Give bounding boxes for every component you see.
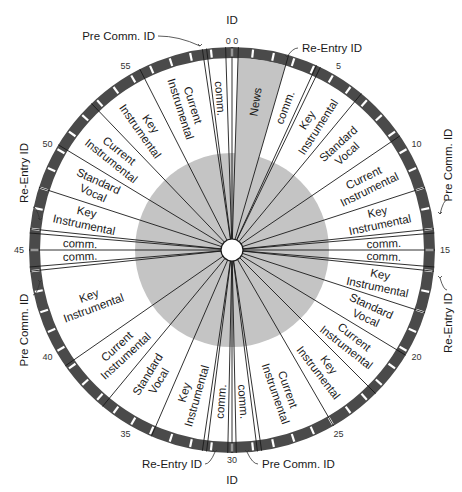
callout-leader xyxy=(158,36,200,46)
center-hub xyxy=(221,239,243,261)
minute-label: 45 xyxy=(14,245,24,255)
callout-label: ID xyxy=(226,14,238,26)
minute-label-bottom: 30 xyxy=(227,455,237,465)
minute-label: 35 xyxy=(120,429,130,439)
segment-label: KeyInstrumental xyxy=(52,200,119,238)
minute-label: 10 xyxy=(411,139,421,149)
segment-label-text: comm. xyxy=(63,250,98,263)
segment-label: comm. xyxy=(366,237,401,250)
segment-label-text: comm. xyxy=(366,250,401,263)
segment-label: comm. xyxy=(236,384,250,419)
callout-label: Pre Comm. ID xyxy=(82,30,155,42)
segment-label-text: comm. xyxy=(236,384,250,419)
callout-leader xyxy=(205,452,215,464)
segment-label: comm. xyxy=(213,81,228,116)
minute-label: 55 xyxy=(120,61,130,71)
minute-notch xyxy=(252,50,253,58)
callout-label: Re-Entry ID xyxy=(18,143,30,203)
callout-label: Pre Comm. ID xyxy=(262,458,335,470)
segment-label: StandardVocal xyxy=(69,166,122,208)
segment-label-text: comm. xyxy=(214,384,228,419)
segment-label: comm. xyxy=(63,237,98,250)
callout-label: Re-Entry ID xyxy=(302,42,362,54)
minute-notch xyxy=(211,50,212,58)
radio-clock-diagram: Newscomm.KeyInstrumentalStandardVocalCur… xyxy=(0,0,462,492)
minute-label: 20 xyxy=(411,352,421,362)
segment-label-text: comm. xyxy=(213,81,228,116)
minute-notch xyxy=(252,442,253,450)
callout-label: Re-Entry ID xyxy=(442,293,454,353)
segment-label: StandardVocal xyxy=(317,124,368,174)
minute-label: 40 xyxy=(43,352,53,362)
segment-label: CurrentInstrumental xyxy=(260,358,304,426)
segment-label: CurrentInstrumental xyxy=(165,73,208,141)
minute-label: 50 xyxy=(43,139,53,149)
callout-label: ID xyxy=(226,474,238,486)
minute-label: 5 xyxy=(336,61,341,71)
arrow-icon xyxy=(438,276,442,278)
minute-label: 25 xyxy=(333,429,343,439)
segment-label-text: comm. xyxy=(366,237,401,250)
minute-notch xyxy=(211,442,212,450)
minute-label-top: 0 0 xyxy=(226,36,239,46)
callout-leader xyxy=(247,452,258,464)
minute-label: 15 xyxy=(440,245,450,255)
segment-label-line2: Instrumental xyxy=(295,344,343,402)
segment-label: comm. xyxy=(214,384,228,419)
segment-label-text: comm. xyxy=(63,237,98,250)
segment-label: KeyInstrumental xyxy=(57,279,125,324)
callout-leader xyxy=(440,278,447,290)
segment-label: comm. xyxy=(63,250,98,263)
segment-label: CurrentInstrumental xyxy=(333,158,401,208)
callout-label: Re-Entry ID xyxy=(142,458,202,470)
callout-label: Pre Comm. ID xyxy=(18,294,30,367)
callout-label: Pre Comm. ID xyxy=(442,129,454,202)
segment-label: KeyInstrumental xyxy=(170,360,211,428)
segment-label: comm. xyxy=(366,250,401,263)
segment-label: KeyInstrumental xyxy=(345,200,412,238)
